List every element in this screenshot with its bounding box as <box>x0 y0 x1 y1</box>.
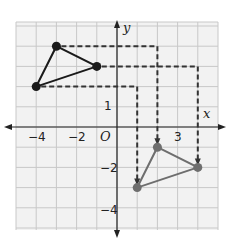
vertex-point <box>153 143 162 152</box>
vertex-point <box>133 183 142 192</box>
y-tick-label: −4 <box>100 203 118 217</box>
y-tick-label: 1 <box>104 99 112 113</box>
vertex-point <box>32 82 41 91</box>
vertex-point <box>92 62 101 71</box>
y-axis-down-arrow-icon <box>114 230 120 238</box>
x-tick-label: 3 <box>174 130 182 144</box>
coordinate-plane: x y O −4 −2 3 1 −2 −4 <box>0 0 231 244</box>
origin-label: O <box>100 129 111 144</box>
x-axis-left-arrow-icon <box>4 124 12 130</box>
x-axis-label: x <box>203 106 211 121</box>
x-axis-right-arrow-icon <box>218 124 226 130</box>
x-tick-label: −4 <box>28 130 46 144</box>
y-tick-label: −2 <box>100 161 118 175</box>
vertex-point <box>52 42 61 51</box>
x-tick-label: −2 <box>68 130 86 144</box>
vertex-point <box>193 163 202 172</box>
y-axis-label: y <box>122 20 131 35</box>
